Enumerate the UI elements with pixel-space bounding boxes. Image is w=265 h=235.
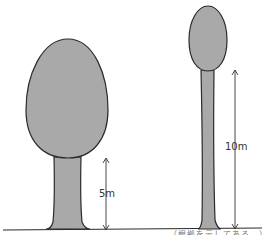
tall-tree-trunk xyxy=(198,70,221,229)
short-tree-crown xyxy=(26,39,108,158)
tall-tree-crown xyxy=(189,6,227,71)
label-10m: 10m xyxy=(225,141,247,152)
short-tree-trunk xyxy=(46,157,90,229)
tree-height-diagram xyxy=(0,0,265,235)
cropped-caption: …（根拠を示してある…） xyxy=(160,228,265,235)
label-5m: 5m xyxy=(99,188,115,199)
